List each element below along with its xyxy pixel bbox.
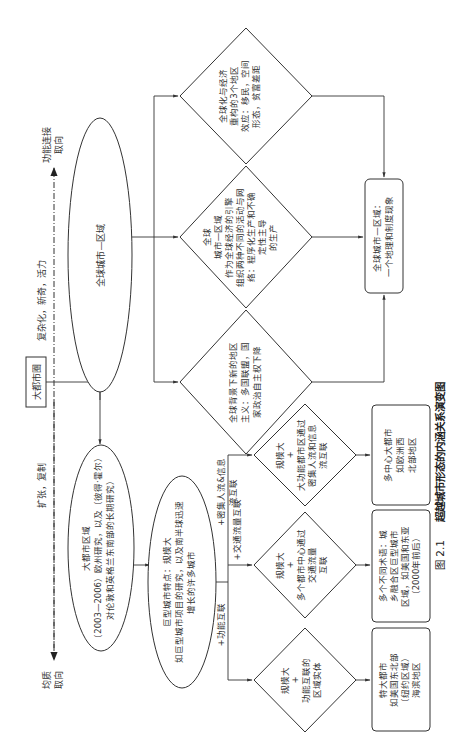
box-text: 一个地理和制度现象 [384, 196, 394, 277]
diamond-text: + [285, 451, 295, 458]
box-global-region-phenomenon: 全球城市—区域： 一个地理和制度现象 [365, 179, 403, 293]
ellipse-text: 增长的许多城市 [186, 551, 196, 614]
box-text: 如美国东北部 [389, 653, 399, 707]
box-text: （2000年前后） [411, 533, 421, 600]
diamond-text: 全球背景下新的地区 [228, 342, 238, 423]
box-text: （纽约区域） [400, 653, 410, 707]
global-connectors [132, 96, 178, 382]
diamond-text: 的生产 [268, 224, 278, 251]
diamond-text: 主义：多国联盟，国 [240, 342, 250, 423]
caption-title: 超越城市形态的内涵关系演变图 [434, 382, 446, 523]
box-multi-terms: 多个不同术语：城 乡融合区巨型城市 区域，如美国和东亚 （2000年前后） [372, 510, 430, 622]
diamond-text: 功能互联的 [301, 658, 311, 703]
ellipse-text: 大都市区域 [81, 526, 91, 571]
diamond-text: 规模大 [275, 442, 285, 469]
diamond-text: 规模大 [275, 552, 285, 579]
box-text: 多个不同术语：城 [378, 530, 388, 602]
diamond-text: 多个都市中心通过 [296, 529, 306, 601]
metropolitan-circle-label: 大都市圈 [31, 364, 42, 400]
diamond-text: 大功能都市区通过 [296, 419, 306, 491]
box-polycentric: 多中心大都市 如欧洲西 北部地区 [372, 405, 430, 505]
box-text: 多中心大都市 [383, 428, 393, 482]
box-text: 海滨地区 [411, 662, 421, 698]
ellipse-megacity: 巨型城市特点：规模大 如巨型城市项目的研究，以及南半球迅速 增长的许多城市 [148, 476, 216, 688]
axis-bottom-label-line2: 取向 [53, 671, 64, 689]
diamond-text: 家政治自主权下降 [252, 346, 262, 418]
ellipse-text: 如巨型城市项目的研究，以及南半球迅速 [174, 501, 184, 663]
figure-caption: 图 2.1 超越城市形态的内涵关系演变图 [434, 382, 446, 570]
diamond-text: 交通流量 [307, 547, 317, 583]
diamond-text: 规模大 [280, 667, 290, 694]
diamond-text: 全球化与经济 [218, 69, 228, 123]
caption-number: 图 2.1 [434, 540, 446, 570]
diagram-canvas: 功能连接 取向 均质 取向 复杂化，新奇，活力 扩张，复制 大都市圈 全球城市—… [0, 0, 456, 753]
axis-lower-segment-label: 扩张，复制 [36, 463, 47, 508]
box-text: 特大都市 [378, 662, 388, 698]
diamond-text: 形态，贫富差距 [251, 65, 261, 128]
box-text: 乡融合区巨型城市 [389, 530, 399, 602]
box-text: 北部地区 [407, 437, 417, 473]
diamond-text: 重构的3个地区 [229, 66, 239, 125]
box-text: 全球城市—区域： [372, 200, 382, 272]
box-text: 如欧洲西 [395, 437, 405, 473]
small-diamond-connectors [356, 455, 370, 680]
branch-label-dense: +密集人流&信息 [216, 458, 226, 526]
branch-label-transport: +交通流量互联 [232, 499, 242, 560]
ellipse-text: 对伦敦和英格兰东南部的长期研究） [105, 476, 115, 620]
axis-top-label-line2: 取向 [53, 136, 64, 154]
ellipse-text: 巨型城市特点：规模大 [162, 537, 172, 627]
diamond-text: 定性主导 [257, 219, 267, 255]
diamond-text: 流互联 [318, 442, 328, 469]
diamond-text: + [290, 676, 300, 683]
diamond-text: 效应：移民，空间 [240, 60, 250, 132]
diamond-text: 区域实体 [312, 662, 322, 698]
axis-bottom-label-line1: 均质 [41, 671, 52, 689]
diamond-text: 密集人流和信息 [307, 424, 317, 487]
ellipse-mega-city-region: 大都市区域 （2003—2006）欧州研究，以及（彼得·霍尔） 对伦敦和英格兰东… [68, 445, 150, 651]
megacity-branches: +功能互联 +交通流量互联 +密集人流&信息 流互联 [216, 455, 252, 680]
ellipse-global-city-region: 全球城市—区域 [68, 118, 132, 392]
axis-top-label-line1: 功能连接 [41, 127, 52, 163]
diamond-text: + [285, 561, 295, 568]
box-megalopolis: 特大都市 如美国东北部 （纽约区域） 海滨地区 [372, 628, 430, 731]
diamond-text: 络：程序化生产和不确 [246, 192, 256, 282]
diamond-functional-links: 规模大 + 功能互联的 区域实体 [254, 628, 356, 732]
diamond-globalization-effects: 全球化与经济 重构的3个地区 效应：移民，空间 形态，贫富差距 [180, 28, 312, 164]
diamond-text: 全球 [202, 228, 212, 246]
axis-upper-segment-label: 复杂化，新奇，活力 [36, 260, 47, 341]
box-text: 区域，如美国和东亚 [400, 526, 410, 607]
diamond-text: 作为全球经济的引擎 [224, 197, 234, 278]
diamond-economic-engine: 全球 城市—区域 作为全球经济的引擎 组织两种不同的活动与网 络：程序化生产和不… [180, 166, 312, 308]
branch-label-dense: 流互联 [228, 479, 238, 506]
branch-label-functional: +功能互联 [216, 603, 226, 646]
diamond-text: 互联 [318, 556, 328, 574]
evolution-axis: 功能连接 取向 均质 取向 复杂化，新奇，活力 扩张，复制 [36, 127, 64, 689]
ellipse-text: 全球城市—区域 [95, 224, 106, 287]
diamond-text: 城市—区域 [213, 215, 223, 260]
ellipse-text: （2003—2006）欧州研究，以及（彼得·霍尔） [93, 453, 103, 642]
diamond-text: 组织两种不同的活动与网 [235, 188, 245, 287]
diamond-transport-flows: 规模大 + 多个都市中心通过 交通流量 互联 [254, 512, 356, 618]
